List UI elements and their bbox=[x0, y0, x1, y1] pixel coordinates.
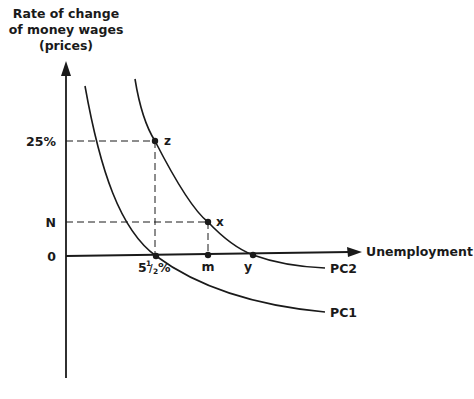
y-axis-label-line1: Rate of change bbox=[13, 6, 119, 21]
x-axis-label: Unemployment bbox=[366, 244, 473, 259]
pc2-curve bbox=[135, 79, 325, 268]
point-z bbox=[152, 138, 158, 144]
pc1-curve bbox=[85, 86, 325, 312]
point-x bbox=[205, 219, 211, 225]
phillips-curve-diagram: Rate of change of money wages (prices) U… bbox=[0, 0, 474, 399]
point-z-label: z bbox=[164, 134, 171, 148]
point-m bbox=[205, 252, 211, 258]
x-tick-m: m bbox=[201, 259, 214, 274]
point-natural-rate bbox=[153, 253, 159, 259]
y-axis-label-line2: of money wages bbox=[9, 22, 124, 37]
pc2-label: PC2 bbox=[330, 261, 357, 276]
y-tick-zero: 0 bbox=[47, 249, 56, 264]
y-tick-n: N bbox=[46, 215, 56, 230]
point-x-label: x bbox=[216, 215, 224, 229]
x-tick-y: y bbox=[244, 259, 252, 274]
x-tick-natural-rate-percent: % bbox=[158, 260, 171, 275]
y-tick-25pct: 25% bbox=[26, 134, 56, 149]
y-axis-label-line3: (prices) bbox=[39, 38, 93, 53]
x-axis-arrowhead-icon bbox=[347, 247, 362, 257]
point-y bbox=[250, 252, 256, 258]
x-tick-natural-rate: 5 1 / 2 % bbox=[138, 259, 171, 276]
pc1-label: PC1 bbox=[330, 305, 357, 320]
y-axis-arrowhead-icon bbox=[61, 61, 71, 76]
